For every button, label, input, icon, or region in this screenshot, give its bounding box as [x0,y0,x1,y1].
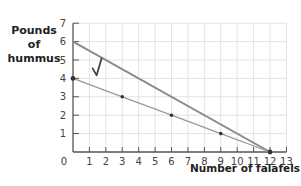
x-tick-label: 3 [119,156,125,167]
chart-plot: 0123456789101112131234567 [0,0,301,186]
annotations [93,58,102,75]
data-point [268,150,273,155]
y-tick-label: 7 [60,18,66,29]
y-tick-label: 4 [60,73,66,84]
x-tick-label: 2 [103,156,109,167]
axes [73,23,286,152]
checkmark-icon [93,58,102,75]
y-tick-label: 1 [60,128,66,139]
grid [73,23,286,152]
data-point [120,95,124,99]
x-tick-label: 4 [135,156,141,167]
data-point [219,132,223,136]
x-axis-label: Number of falafels [190,162,300,174]
y-tick-label: 6 [60,36,66,47]
data-point [71,76,76,81]
y-tick-label: 2 [60,110,66,121]
x-tick-label: 6 [168,156,174,167]
y-tick-label: 5 [60,55,66,66]
y-tick-label: 3 [60,91,66,102]
x-tick-label: 0 [61,156,67,167]
x-tick-label: 5 [152,156,158,167]
data-point [170,113,174,117]
x-tick-label: 1 [86,156,92,167]
